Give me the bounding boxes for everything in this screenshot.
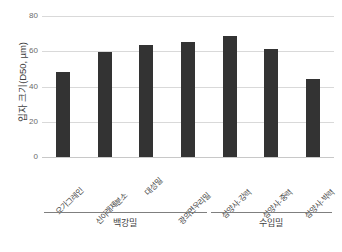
bar-chart: 입자 크기(D50, µm) 020406080 오가그레인신아래제분소대성밀광… [0,0,342,252]
group-bracket: 수입밀 [211,212,332,229]
x-axis-category-labels: 오가그레인신아래제분소대성밀광의면우리밀삼양사-강력삼양사-중력삼양사-박력 [42,157,334,213]
bar[interactable] [56,72,70,157]
x-category-label: 대성밀 [144,176,165,197]
bar[interactable] [264,49,278,157]
y-axis-tick-labels: 020406080 [20,0,38,252]
y-tick-label-60: 60 [20,47,38,55]
bars-layer [42,16,334,157]
group-rule [211,212,332,213]
bar[interactable] [181,42,195,157]
y-tick-label-40: 40 [20,83,38,91]
group-bracket: 백강밀 [44,212,207,229]
group-rule [44,212,207,213]
bar[interactable] [98,52,112,157]
y-tick-label-80: 80 [20,12,38,20]
bar[interactable] [306,79,320,157]
group-brackets: 백강밀수입밀 [42,212,334,244]
bar[interactable] [139,45,153,157]
bar[interactable] [223,36,237,157]
group-label: 수입밀 [211,218,332,229]
plot-area [42,16,334,157]
group-label: 백강밀 [44,218,207,229]
y-tick-label-20: 20 [20,118,38,126]
y-tick-label-0: 0 [20,153,38,161]
